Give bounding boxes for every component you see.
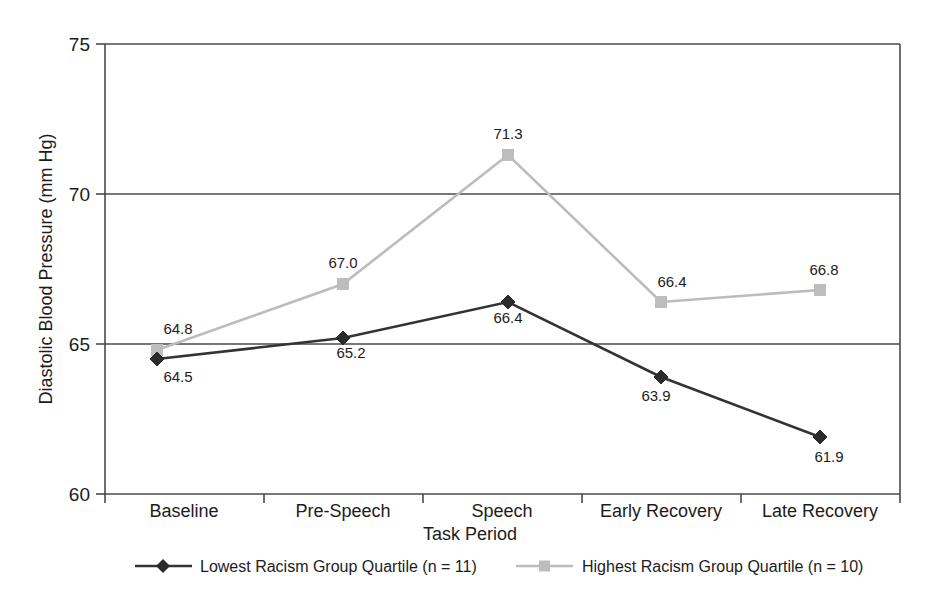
x-tick-label-late-recovery: Late Recovery xyxy=(762,501,878,521)
x-tick-label-speech: Speech xyxy=(471,501,532,521)
marker-highest-racism-3 xyxy=(656,297,667,308)
y-tick-label-65: 65 xyxy=(69,334,90,355)
y-tick-label-75: 75 xyxy=(69,34,90,55)
marker-highest-racism-4 xyxy=(815,285,826,296)
data-label-highest-racism-3: 66.4 xyxy=(657,273,686,290)
data-label-highest-racism-0: 64.8 xyxy=(163,320,192,337)
data-label-highest-racism-1: 67.0 xyxy=(328,254,357,271)
data-label-lowest-racism-1: 65.2 xyxy=(336,344,365,361)
x-tick-label-pre-speech: Pre-Speech xyxy=(295,501,390,521)
legend-label-lowest-racism: Lowest Racism Group Quartile (n = 11) xyxy=(200,558,477,575)
marker-highest-racism-1 xyxy=(338,279,349,290)
chart-figure: 75 70 65 60 Diastolic Blood Pressure (mm… xyxy=(0,0,947,600)
y-tick-label-70: 70 xyxy=(69,184,90,205)
data-label-lowest-racism-3: 63.9 xyxy=(641,387,670,404)
legend-square-icon xyxy=(539,561,550,572)
x-axis-title: Task Period xyxy=(423,524,517,544)
data-label-lowest-racism-0: 64.5 xyxy=(163,368,192,385)
y-tick-label-60: 60 xyxy=(69,484,90,505)
data-label-highest-racism-2: 71.3 xyxy=(493,125,522,142)
data-label-highest-racism-4: 66.8 xyxy=(809,261,838,278)
data-label-lowest-racism-2: 66.4 xyxy=(493,309,522,326)
legend-label-highest-racism: Highest Racism Group Quartile (n = 10) xyxy=(582,558,863,575)
y-axis-title: Diastolic Blood Pressure (mm Hg) xyxy=(36,133,56,404)
marker-highest-racism-2 xyxy=(503,150,514,161)
line-chart: 75 70 65 60 Diastolic Blood Pressure (mm… xyxy=(0,0,947,600)
data-label-lowest-racism-4: 61.9 xyxy=(814,448,843,465)
x-tick-label-early-recovery: Early Recovery xyxy=(600,501,722,521)
x-tick-label-baseline: Baseline xyxy=(149,501,218,521)
